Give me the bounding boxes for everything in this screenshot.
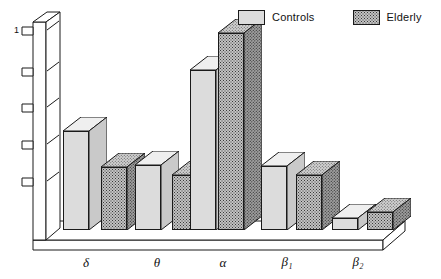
chart-canvas: 1 <box>0 0 441 279</box>
xtick-label-theta: θ <box>137 256 177 269</box>
chart-legend: Controls Elderly <box>238 10 422 25</box>
floor-front-face <box>33 240 383 250</box>
ytick-mark-1 <box>22 27 33 35</box>
legend-label-controls: Controls <box>272 12 315 23</box>
bar-theta-controls <box>135 165 161 230</box>
xtick-label-alpha: α <box>203 256 243 269</box>
ytick-mark-4 <box>22 141 33 149</box>
xtick-label-delta: δ <box>66 256 106 269</box>
legend-swatch-controls-icon <box>238 10 265 25</box>
legend-swatch-elderly-icon <box>353 10 380 25</box>
xtick-label-beta2: β₂ <box>338 255 378 268</box>
legend-item-controls: Controls <box>238 10 315 25</box>
ytick-side-2 <box>47 62 59 71</box>
bar-delta-elderly <box>101 167 127 230</box>
yaxis-top-face <box>33 12 60 22</box>
legend-label-elderly: Elderly <box>387 12 422 23</box>
bar-beta2-controls <box>332 218 358 230</box>
bar-beta1-controls <box>261 166 287 230</box>
bar-beta2-elderly <box>367 212 393 230</box>
bar-side-face <box>244 19 262 230</box>
legend-item-elderly: Elderly <box>353 10 422 25</box>
bar-alpha-controls <box>190 70 216 230</box>
ytick-side-4 <box>47 135 59 144</box>
bar-delta-controls <box>63 131 89 230</box>
ytick-side-5 <box>47 172 59 181</box>
yaxis-front-face <box>33 22 46 240</box>
ytick-side-3 <box>47 98 59 107</box>
ytick-label-1: 1 <box>5 26 19 35</box>
yaxis-side-face <box>46 12 60 240</box>
bar-beta1-elderly <box>296 175 322 230</box>
ytick-mark-2 <box>22 68 33 76</box>
ytick-mark-3 <box>22 104 33 112</box>
bar-alpha-elderly <box>218 33 244 230</box>
ytick-mark-5 <box>22 178 33 186</box>
ytick-side-1 <box>47 21 59 30</box>
xtick-label-beta1: β₁ <box>267 255 307 268</box>
